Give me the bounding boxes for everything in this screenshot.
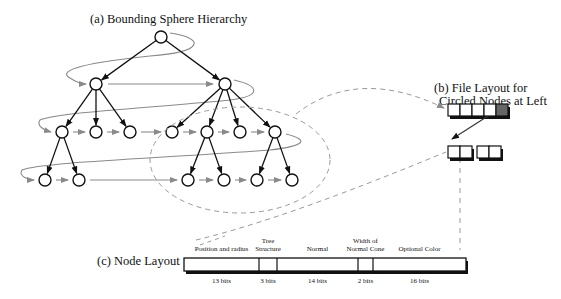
tree-edge [209, 90, 222, 126]
file-record-box [472, 104, 484, 116]
tree-edge [259, 138, 272, 174]
tree-node [251, 174, 263, 186]
file-record-box [448, 104, 460, 116]
tree-node [155, 31, 167, 43]
tree-edge [277, 138, 290, 174]
node-layout-bar [184, 258, 468, 274]
file-layout-row2 [448, 146, 503, 161]
tree-edge [209, 138, 222, 174]
tree-node [90, 126, 102, 138]
tree-node [73, 174, 85, 186]
file-record-box [460, 146, 472, 158]
tree-edge [99, 89, 125, 126]
tree-node [219, 78, 231, 90]
traversal-path [21, 33, 301, 180]
tree-edge [177, 88, 220, 127]
tree-node [39, 174, 51, 186]
file-record-box [477, 146, 489, 158]
tree-edges [47, 41, 289, 174]
tree-node [166, 126, 178, 138]
file-record-box [484, 104, 496, 116]
bit-count-label: 16 bits [390, 277, 450, 285]
tree-edge [64, 138, 77, 174]
pointer-arrow [452, 116, 488, 139]
file-record-box [448, 146, 460, 158]
tree-node [218, 174, 230, 186]
file-record-box [489, 146, 501, 158]
connector-lower [196, 152, 446, 240]
figure: (a) Bounding Sphere Hierarchy (b) File L… [0, 0, 561, 299]
field-label: Optional Color [380, 246, 460, 254]
file-layout-row1 [448, 104, 510, 119]
tree-node [56, 126, 68, 138]
file-record-box-highlighted [496, 104, 508, 116]
tree-node [201, 126, 213, 138]
diagram-canvas [0, 0, 561, 299]
file-record-box [460, 104, 472, 116]
tree-node [182, 174, 194, 186]
connector-node-layout-left [200, 236, 225, 245]
tree-edge [102, 41, 156, 80]
tree-node [124, 126, 136, 138]
tree-edge [66, 89, 92, 126]
tree-edge [47, 138, 60, 174]
tree-node [286, 174, 298, 186]
circled-region [150, 107, 330, 213]
tree-node [234, 126, 246, 138]
tree-node [269, 126, 281, 138]
connector-upper [296, 88, 444, 114]
bit-count-label: 2 bits [336, 277, 396, 285]
tree-node [90, 78, 102, 90]
